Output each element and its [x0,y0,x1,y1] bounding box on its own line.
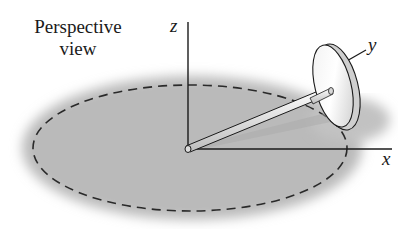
caption-line-2: view [18,38,138,60]
z-axis-label: z [170,15,177,37]
x-axis-label: x [382,148,390,170]
perspective-diagram: Perspective view z y x [0,0,417,229]
y-axis-label: y [368,34,376,56]
caption-line-1: Perspective [18,16,138,38]
caption: Perspective view [18,16,138,60]
